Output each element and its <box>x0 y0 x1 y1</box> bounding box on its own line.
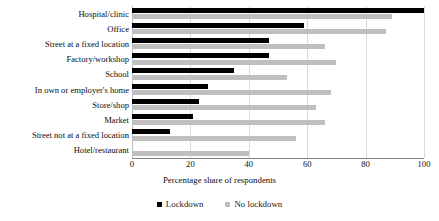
chart-row: Hotel/restaurant <box>0 143 439 158</box>
x-axis-tick-labels: 020406080100 <box>132 160 424 174</box>
row-bars <box>132 82 424 97</box>
bar-no-lockdown <box>132 151 249 156</box>
legend-item[interactable]: Lockdown <box>157 200 204 209</box>
row-bars <box>132 112 424 127</box>
bar-no-lockdown <box>132 90 331 95</box>
bar-lockdown <box>132 23 304 28</box>
bar-lockdown <box>132 84 208 89</box>
chart-row: Street not at a fixed location <box>0 128 439 143</box>
chart-rows: Hospital/clinicOfficeStreet at a fixed l… <box>0 6 439 158</box>
x-tick-label: 100 <box>418 160 431 169</box>
x-axis-line <box>132 158 424 159</box>
category-label: Store/shop <box>92 100 129 109</box>
legend-item[interactable]: No lockdown <box>225 200 282 209</box>
legend-label: Lockdown <box>166 200 204 209</box>
bar-no-lockdown <box>132 105 316 110</box>
bar-lockdown <box>132 68 234 73</box>
row-bars <box>132 6 424 21</box>
x-axis-title: Percentage share of respondents <box>0 176 439 185</box>
category-label: School <box>105 70 129 79</box>
row-bars <box>132 143 424 158</box>
x-tick-label: 40 <box>245 160 254 169</box>
bar-no-lockdown <box>132 44 325 49</box>
chart-row: Hospital/clinic <box>0 6 439 21</box>
bar-no-lockdown <box>132 29 386 34</box>
bar-no-lockdown <box>132 120 325 125</box>
legend-label: No lockdown <box>234 200 282 209</box>
category-label: Office <box>107 24 129 33</box>
bar-chart: Hospital/clinicOfficeStreet at a fixed l… <box>0 0 439 221</box>
row-bars <box>132 97 424 112</box>
x-tick-label: 60 <box>303 160 312 169</box>
chart-row: Market <box>0 112 439 127</box>
category-label: Hotel/restaurant <box>74 146 129 155</box>
category-label: Factory/workshop <box>66 55 129 64</box>
bar-no-lockdown <box>132 136 296 141</box>
bar-lockdown <box>132 38 269 43</box>
bar-no-lockdown <box>132 75 287 80</box>
row-bars <box>132 128 424 143</box>
row-bars <box>132 52 424 67</box>
chart-row: School <box>0 67 439 82</box>
bar-lockdown <box>132 129 170 134</box>
category-label: Hospital/clinic <box>78 9 129 18</box>
bar-lockdown <box>132 99 199 104</box>
chart-row: Office <box>0 21 439 36</box>
x-tick-label: 0 <box>130 160 134 169</box>
legend-swatch-icon <box>157 202 162 207</box>
category-label: Street at a fixed location <box>45 40 129 49</box>
row-bars <box>132 21 424 36</box>
bar-lockdown <box>132 114 193 119</box>
bar-no-lockdown <box>132 60 336 65</box>
chart-row: Store/shop <box>0 97 439 112</box>
category-label: Market <box>104 116 129 125</box>
chart-legend: LockdownNo lockdown <box>0 200 439 209</box>
category-label: Street not at a fixed location <box>32 131 129 140</box>
chart-row: Street at a fixed location <box>0 36 439 51</box>
category-label: In own or employer's home <box>35 85 129 94</box>
bar-lockdown <box>132 8 424 13</box>
chart-row: Factory/workshop <box>0 52 439 67</box>
bar-lockdown <box>132 53 269 58</box>
bar-no-lockdown <box>132 14 392 19</box>
legend-swatch-icon <box>225 202 230 207</box>
row-bars <box>132 67 424 82</box>
row-bars <box>132 36 424 51</box>
x-tick-label: 20 <box>186 160 195 169</box>
chart-row: In own or employer's home <box>0 82 439 97</box>
x-tick-label: 80 <box>361 160 370 169</box>
